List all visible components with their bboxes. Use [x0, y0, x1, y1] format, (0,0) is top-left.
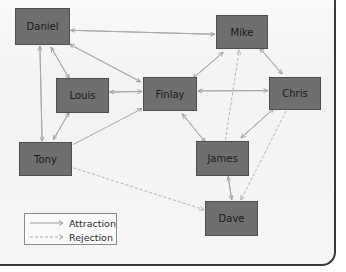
node-label: Chris	[282, 88, 307, 99]
node-dave[interactable]: Dave	[205, 201, 258, 236]
node-label: Mike	[231, 27, 254, 38]
node-mike[interactable]: Mike	[216, 15, 268, 49]
node-label: Louis	[70, 90, 96, 101]
legend-item-rejection: Rejection	[29, 230, 113, 244]
attraction-edge-mike-to-daniel	[71, 30, 215, 34]
node-label: Tony	[34, 154, 57, 165]
node-daniel[interactable]: Daniel	[15, 8, 70, 45]
node-chris[interactable]: Chris	[269, 77, 321, 110]
attraction-edge-finlay-to-louis	[110, 92, 142, 93]
rejection-edge-james-to-mike	[225, 50, 239, 140]
attraction-edge-james-to-finlay	[182, 114, 205, 142]
rejection-edge-tony-to-dave	[73, 168, 204, 210]
dashed-arrow-icon	[29, 233, 65, 241]
legend-item-attraction: Attraction	[29, 216, 116, 230]
node-label: Finlay	[156, 89, 185, 100]
attraction-edge-chris-to-mike	[260, 48, 282, 74]
node-louis[interactable]: Louis	[56, 78, 109, 113]
node-label: Dave	[219, 213, 245, 224]
attraction-edge-tony-to-finlay	[73, 109, 142, 145]
node-james[interactable]: James	[196, 141, 249, 176]
node-finlay[interactable]: Finlay	[143, 77, 197, 111]
node-label: Daniel	[27, 21, 59, 32]
attraction-edge-dave-to-james	[228, 177, 232, 200]
attraction-edge-finlay-to-daniel	[70, 44, 141, 82]
legend-label-attraction: Attraction	[69, 218, 116, 229]
legend: Attraction Rejection	[24, 213, 117, 245]
node-label: James	[207, 153, 237, 164]
attraction-edge-tony-to-louis	[53, 113, 69, 140]
attraction-edge-tony-to-daniel	[40, 46, 42, 141]
attraction-edge-louis-to-daniel	[51, 48, 69, 79]
attraction-edge-james-to-chris	[241, 109, 273, 138]
solid-arrow-icon	[29, 219, 65, 227]
node-tony[interactable]: Tony	[19, 142, 72, 176]
attraction-edge-mike-to-finlay	[193, 52, 223, 78]
legend-label-rejection: Rejection	[69, 232, 113, 243]
